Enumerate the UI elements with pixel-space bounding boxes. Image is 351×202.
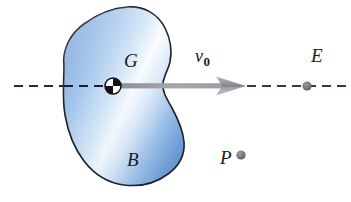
rigid-body-B <box>63 7 184 186</box>
label-velocity-subscript: 0 <box>204 54 211 69</box>
label-center-of-gravity: G <box>124 51 138 70</box>
label-velocity: v0 <box>195 47 210 68</box>
label-point-e: E <box>311 46 323 65</box>
mechanics-diagram-svg <box>0 0 351 202</box>
center-of-gravity-marker <box>105 78 121 94</box>
label-point-p: P <box>220 148 232 167</box>
label-body: B <box>127 150 139 169</box>
label-velocity-symbol: v <box>195 46 203 66</box>
figure-canvas: G B E P v0 <box>0 0 351 202</box>
point-e-dot <box>302 81 311 90</box>
point-p-dot <box>236 150 245 159</box>
